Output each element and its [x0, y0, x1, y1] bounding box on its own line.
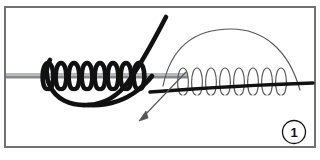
figure-screenshot: 1: [0, 0, 320, 160]
thin-coil-right: [178, 68, 287, 95]
thick-coil-left: [43, 63, 145, 89]
step-number-badge: 1: [283, 121, 306, 144]
knot-diagram: 1: [0, 0, 320, 160]
step-number-label: 1: [290, 125, 297, 140]
horizontal-rod: [6, 74, 188, 77]
thin-overhead-arc: [163, 29, 300, 90]
